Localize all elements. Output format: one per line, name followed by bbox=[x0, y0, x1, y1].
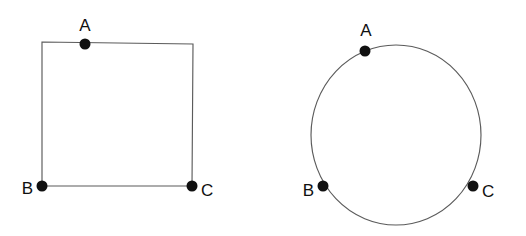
square-point-a-dot bbox=[80, 39, 91, 50]
square-point-a-label: A bbox=[79, 16, 91, 35]
geometry-figure: A B C A B C bbox=[0, 0, 526, 236]
square-figure: A B C bbox=[22, 16, 214, 200]
square-point-b-label: B bbox=[22, 179, 33, 198]
square-outline bbox=[42, 42, 193, 186]
figure-canvas: A B C A B C bbox=[0, 0, 526, 236]
square-point-c-label: C bbox=[201, 181, 213, 200]
circle-outline bbox=[311, 45, 481, 225]
square-point-b-dot bbox=[37, 181, 48, 192]
square-point-c-dot bbox=[187, 181, 198, 192]
circle-point-c-label: C bbox=[482, 182, 494, 201]
circle-point-c-dot bbox=[468, 181, 479, 192]
circle-point-b-label: B bbox=[303, 181, 314, 200]
circle-point-a-label: A bbox=[360, 21, 372, 40]
circle-point-a-dot bbox=[360, 46, 371, 57]
circle-figure: A B C bbox=[303, 21, 495, 225]
circle-point-b-dot bbox=[318, 181, 329, 192]
